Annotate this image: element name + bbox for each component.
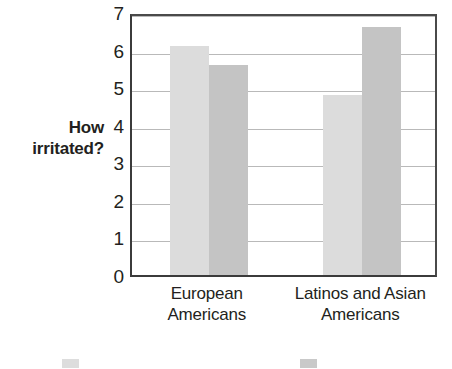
legend-color-swatch — [62, 359, 79, 368]
x-category-label: Latinos and AsianAmericans — [270, 283, 450, 325]
bar[interactable] — [209, 65, 248, 275]
y-tick-label: 1 — [100, 229, 124, 248]
y-tick-label: 6 — [100, 42, 124, 61]
y-axis-title: How irritated? — [0, 117, 104, 159]
y-axis-title-line-1: How — [69, 118, 104, 137]
y-tick-label: 7 — [100, 4, 124, 23]
y-tick-label: 3 — [100, 154, 124, 173]
bar-group — [323, 16, 401, 275]
bar-chart-figure: How irritated? 01234567 EuropeanAmerican… — [0, 0, 452, 369]
bar[interactable] — [170, 46, 209, 275]
y-axis-title-line-2: irritated? — [32, 139, 104, 158]
bar[interactable] — [323, 95, 362, 275]
x-category-label-line: Americans — [270, 304, 450, 325]
chart-legend — [0, 357, 452, 369]
bar-group — [170, 16, 248, 275]
legend-color-swatch — [300, 359, 317, 368]
y-tick-label: 4 — [100, 117, 124, 136]
y-tick-label: 2 — [100, 192, 124, 211]
bar[interactable] — [362, 27, 401, 275]
x-category-label-line: Latinos and Asian — [270, 283, 450, 304]
y-tick-label: 5 — [100, 79, 124, 98]
plot-area — [130, 14, 437, 277]
legend-item[interactable] — [62, 357, 88, 368]
legend-item[interactable] — [300, 357, 326, 368]
